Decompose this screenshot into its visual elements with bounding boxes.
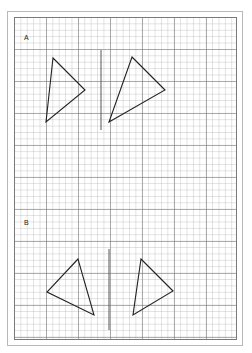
reflection-drawings <box>0 0 252 353</box>
triangle-a-right <box>109 57 165 122</box>
triangle-a-left <box>46 58 85 122</box>
triangle-b-left <box>47 259 94 315</box>
triangle-b-right <box>133 259 173 315</box>
